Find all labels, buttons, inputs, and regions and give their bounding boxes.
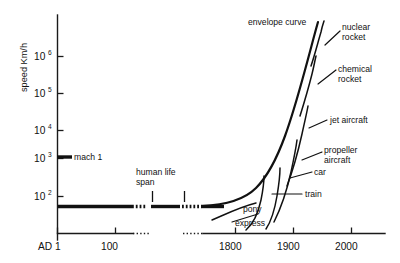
chemical-rocket-label-line2: rocket	[338, 74, 362, 84]
y-tick-mantissa: 10	[34, 153, 46, 164]
car-annotation: car	[290, 167, 326, 178]
propeller-aircraft-leader	[302, 152, 322, 160]
car-branch	[266, 168, 280, 229]
chemical-rocket-annotation: chemical rocket	[318, 64, 372, 84]
y-tick-mantissa: 10	[34, 191, 46, 202]
mach1-annotation: mach 1	[57, 152, 102, 162]
x-tick-label-100: 100	[101, 241, 118, 252]
x-tick-label-2000: 2000	[335, 241, 358, 252]
nuclear-rocket-label-line1: nuclear	[342, 22, 370, 32]
y-tick-exponent: 4	[48, 123, 52, 130]
human-life-span-label-line2: span	[136, 177, 155, 187]
nuclear-rocket-annotation: nuclear rocket	[325, 22, 370, 45]
y-axis-title: speed Km/h	[19, 43, 29, 92]
jet-aircraft-leader	[309, 120, 327, 128]
chemical-rocket-leader	[318, 70, 336, 84]
jet-aircraft-annotation: jet aircraft	[309, 115, 368, 128]
nuclear-rocket-label-line2: rocket	[342, 32, 366, 42]
human-life-span-annotation: human life span	[136, 167, 185, 202]
y-tick-label-1e3: 10 3	[34, 151, 52, 164]
x-tick-label-1800: 1800	[219, 241, 242, 252]
y-tick-label-1e2: 10 2	[34, 189, 52, 202]
chemical-rocket-label-line1: chemical	[338, 64, 372, 74]
y-axis-group: 10 6 10 5 10 4 10 3 10 2 speed Km/h	[19, 15, 64, 240]
nuclear-rocket-leader	[325, 31, 340, 45]
y-tick-exponent: 6	[48, 49, 52, 56]
car-label: car	[314, 167, 326, 177]
human-life-span-label-line1: human life	[136, 167, 176, 177]
y-tick-mantissa: 10	[34, 51, 46, 62]
x-tick-label-1900: 1900	[277, 241, 300, 252]
propeller-aircraft-label-line2: aircraft	[324, 155, 351, 165]
propeller-aircraft-annotation: propeller aircraft	[302, 145, 358, 165]
y-tick-label-1e5: 10 5	[34, 86, 52, 99]
x-axis-group: AD 1 100 1800 1900 2000	[38, 228, 385, 253]
pony-label: pony	[243, 204, 262, 214]
jet-aircraft-label: jet aircraft	[329, 115, 368, 125]
train-label: train	[305, 189, 322, 199]
mach1-label: mach 1	[74, 152, 102, 162]
y-tick-mantissa: 10	[34, 125, 46, 136]
y-tick-exponent: 2	[48, 189, 52, 196]
speed-evolution-chart: 10 6 10 5 10 4 10 3 10 2 speed Km/h	[0, 0, 400, 263]
y-tick-label-1e6: 10 6	[34, 49, 52, 62]
car-leader	[290, 172, 312, 178]
y-tick-exponent: 3	[48, 151, 52, 158]
propeller-aircraft-label-line1: propeller	[324, 145, 358, 155]
envelope-curve-label: envelope curve	[248, 17, 307, 27]
y-tick-label-1e4: 10 4	[34, 123, 52, 136]
x-tick-label-ad1: AD 1	[38, 241, 61, 252]
y-tick-mantissa: 10	[34, 88, 46, 99]
train-annotation: train	[272, 189, 322, 199]
pony-express-annotation: pony express	[232, 204, 265, 228]
y-tick-exponent: 5	[48, 86, 52, 93]
chart-svg: 10 6 10 5 10 4 10 3 10 2 speed Km/h	[0, 0, 400, 263]
envelope-curve-annotation: envelope curve	[248, 17, 307, 27]
